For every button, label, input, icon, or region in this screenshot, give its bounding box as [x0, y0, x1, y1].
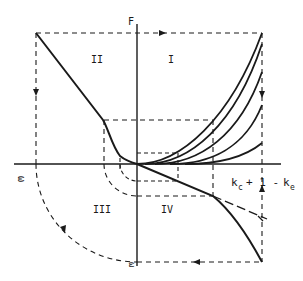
arrow-left-icon: [193, 259, 200, 265]
quadrant-IV-label: IV: [161, 204, 173, 215]
svg-text:k: k: [231, 176, 238, 189]
arrow-curve-icon: [60, 225, 66, 233]
quadrant-II-curve: [36, 33, 137, 164]
quadrant-III-label: III: [93, 204, 111, 215]
axes: [14, 24, 281, 266]
four-quadrant-diagram: F I II III IV ω ω k c + 1 - k e: [0, 0, 303, 281]
svg-text:+ 1 -: + 1 -: [246, 176, 279, 189]
svg-text:e: e: [290, 183, 295, 192]
outer-construction-path: [36, 33, 262, 262]
quadrant-IV-curve: [137, 164, 262, 262]
arrow-right-icon: [159, 30, 166, 36]
omega-left-label: ω: [16, 176, 27, 182]
omega-bottom-label: ω: [127, 262, 137, 268]
quadrant-II-label: II: [91, 54, 103, 65]
quadrant-I-curves: [137, 33, 262, 164]
svg-text:c: c: [238, 183, 243, 192]
arrow-down-icon: [33, 89, 39, 96]
arrow-down-icon: [259, 91, 265, 98]
quadrant-I-label: I: [168, 54, 174, 65]
f-axis-label: F: [128, 16, 134, 27]
quadrant-IV-asymptote: [213, 196, 267, 219]
svg-text:k: k: [283, 176, 290, 189]
